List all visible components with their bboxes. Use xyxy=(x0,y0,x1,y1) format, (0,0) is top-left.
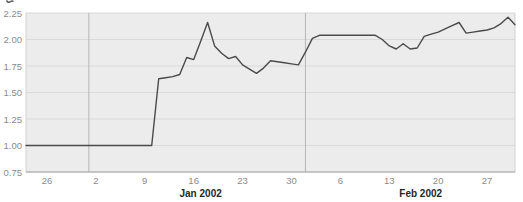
x-tick-label: 9 xyxy=(142,175,147,186)
line-chart-panel: 0.751.001.251.501.752.002.25262916233061… xyxy=(0,0,523,202)
y-tick-label: 2.25 xyxy=(4,8,23,19)
x-tick-label: 23 xyxy=(237,175,248,186)
x-tick-label: 27 xyxy=(482,175,493,186)
time-series-line-chart: 0.751.001.251.501.752.002.25262916233061… xyxy=(0,0,523,202)
x-tick-label: 16 xyxy=(188,175,199,186)
y-tick-label: 1.75 xyxy=(4,61,23,72)
y-tick-label: 1.25 xyxy=(4,114,23,125)
month-label: Feb 2002 xyxy=(399,188,442,199)
y-tick-label: 2.00 xyxy=(4,34,23,45)
x-tick-label: 2 xyxy=(93,175,98,186)
y-tick-label: 1.00 xyxy=(4,140,23,151)
y-tick-label: 1.50 xyxy=(4,87,23,98)
x-tick-label: 20 xyxy=(433,175,444,186)
x-tick-label: 6 xyxy=(338,175,343,186)
month-label: Jan 2002 xyxy=(180,188,223,199)
cropped-text-artifact xyxy=(7,1,14,3)
x-tick-label: 13 xyxy=(384,175,395,186)
x-tick-label: 30 xyxy=(286,175,297,186)
x-tick-label: 26 xyxy=(42,175,53,186)
y-tick-label: 0.75 xyxy=(4,167,23,178)
